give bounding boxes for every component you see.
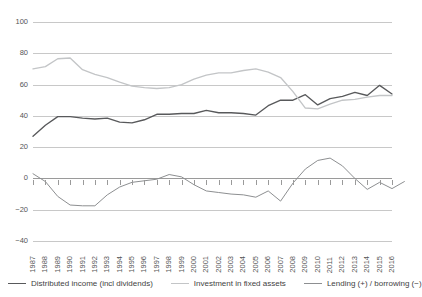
y-axis-tick-label: 40 bbox=[20, 112, 28, 120]
x-axis-tick bbox=[342, 180, 343, 185]
x-axis-tick-label: 2003 bbox=[227, 256, 235, 273]
x-axis-ticks bbox=[33, 180, 392, 186]
series-line bbox=[33, 85, 392, 136]
x-axis-tick bbox=[231, 180, 232, 185]
plot-area bbox=[33, 22, 392, 241]
legend-item[interactable]: Investment in fixed assets bbox=[171, 279, 286, 288]
x-axis-tick bbox=[144, 180, 145, 185]
x-axis-tick bbox=[45, 180, 46, 185]
x-axis-tick bbox=[132, 180, 133, 185]
chart-legend: Distributed income (incl dividends)Inves… bbox=[8, 276, 392, 290]
x-axis-tick bbox=[268, 180, 269, 185]
x-axis-tick bbox=[157, 180, 158, 185]
x-axis-tick-label: 1999 bbox=[178, 256, 186, 273]
x-axis-line bbox=[33, 241, 392, 242]
x-axis-tick-label: 2016 bbox=[388, 256, 396, 273]
x-axis-tick-label: 2008 bbox=[289, 256, 297, 273]
x-axis-tick-label: 1991 bbox=[79, 256, 87, 273]
x-axis-tick bbox=[83, 180, 84, 185]
x-axis-tick-label: 1994 bbox=[116, 256, 124, 273]
x-axis-tick bbox=[256, 180, 257, 185]
x-axis-tick bbox=[182, 180, 183, 185]
y-axis-tick-label: −20 bbox=[15, 206, 28, 214]
x-axis-tick bbox=[107, 180, 108, 185]
x-axis-tick-label: 2004 bbox=[239, 256, 247, 273]
y-axis-tick-label: 0 bbox=[24, 174, 28, 182]
x-axis-tick-label: 2011 bbox=[326, 257, 334, 273]
x-axis-tick-label: 2015 bbox=[376, 256, 384, 273]
x-axis-tick-label: 2014 bbox=[363, 256, 371, 273]
x-axis-tick bbox=[120, 180, 121, 185]
x-axis-tick bbox=[305, 180, 306, 185]
x-axis-tick bbox=[281, 180, 282, 185]
x-axis-tick-label: 1990 bbox=[66, 256, 74, 273]
x-axis-tick bbox=[293, 180, 294, 185]
x-axis-tick-label: 1993 bbox=[103, 256, 111, 273]
x-axis-tick bbox=[58, 180, 59, 185]
x-axis-tick bbox=[367, 180, 368, 185]
x-axis-tick bbox=[392, 180, 393, 185]
x-axis-tick bbox=[380, 180, 381, 185]
legend-label: Distributed income (incl dividends) bbox=[31, 279, 153, 288]
x-axis-tick bbox=[219, 180, 220, 185]
x-axis-tick-label: 2001 bbox=[202, 256, 210, 273]
y-axis-tick-label: 60 bbox=[20, 81, 28, 89]
y-axis-tick-label: 100 bbox=[15, 18, 28, 26]
x-axis-tick-label: 1997 bbox=[153, 256, 161, 273]
x-axis-tick bbox=[70, 180, 71, 185]
series-lines bbox=[33, 22, 392, 241]
x-axis-tick-label: 2005 bbox=[252, 256, 260, 273]
series-line bbox=[33, 58, 392, 109]
x-axis-tick-label: 2013 bbox=[351, 256, 359, 273]
x-axis-tick-label: 2007 bbox=[277, 256, 285, 273]
x-axis-tick bbox=[355, 180, 356, 185]
x-axis-tick-label: 1987 bbox=[29, 256, 37, 273]
legend-item[interactable]: Distributed income (incl dividends) bbox=[8, 279, 153, 288]
x-axis-tick-label: 2010 bbox=[314, 256, 322, 273]
legend-item[interactable]: Lending (+) / borrowing (−) bbox=[304, 279, 422, 288]
y-axis-labels: 100806040200−20−40 bbox=[0, 22, 28, 241]
x-axis-tick-label: 1998 bbox=[165, 256, 173, 273]
x-axis-tick bbox=[33, 180, 34, 185]
x-axis-tick bbox=[169, 180, 170, 185]
legend-swatch-icon bbox=[304, 283, 322, 284]
y-axis-tick-label: 20 bbox=[20, 143, 28, 151]
legend-label: Lending (+) / borrowing (−) bbox=[327, 279, 422, 288]
x-axis-tick-label: 1995 bbox=[128, 256, 136, 273]
x-axis-tick-label: 1989 bbox=[54, 256, 62, 273]
x-axis-tick-label: 2006 bbox=[264, 256, 272, 273]
x-axis-tick bbox=[194, 180, 195, 185]
x-axis-tick-label: 2002 bbox=[215, 256, 223, 273]
x-axis-tick-label: 2012 bbox=[338, 256, 346, 273]
y-axis-tick-label: −40 bbox=[15, 237, 28, 245]
x-axis-tick bbox=[243, 180, 244, 185]
x-axis-tick bbox=[318, 180, 319, 185]
x-axis-tick-label: 1996 bbox=[140, 256, 148, 273]
x-axis-tick-label: 2009 bbox=[301, 256, 309, 273]
y-axis-tick-label: 80 bbox=[20, 49, 28, 57]
legend-swatch-icon bbox=[8, 283, 26, 284]
x-axis-tick bbox=[95, 180, 96, 185]
x-axis-tick bbox=[330, 180, 331, 185]
legend-label: Investment in fixed assets bbox=[194, 279, 286, 288]
x-axis-labels: 1987198819891990199119921993199419951996… bbox=[33, 243, 392, 273]
x-axis-tick bbox=[206, 180, 207, 185]
x-axis-tick-label: 2000 bbox=[190, 256, 198, 273]
x-axis-tick-label: 1988 bbox=[41, 256, 49, 273]
x-axis-tick-label: 1992 bbox=[91, 256, 99, 273]
legend-swatch-icon bbox=[171, 283, 189, 284]
